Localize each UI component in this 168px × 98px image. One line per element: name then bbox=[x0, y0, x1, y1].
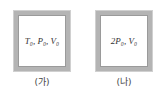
container-b-caption: (나) bbox=[96, 75, 152, 88]
container-b: 2P₀, V₀ bbox=[96, 11, 152, 71]
container-a-caption: (가) bbox=[14, 75, 70, 88]
container-b-state: 2P₀, V₀ bbox=[111, 36, 137, 46]
container-a-state: T₀, P₀, V₀ bbox=[25, 36, 59, 46]
container-a: T₀, P₀, V₀ bbox=[14, 11, 70, 71]
